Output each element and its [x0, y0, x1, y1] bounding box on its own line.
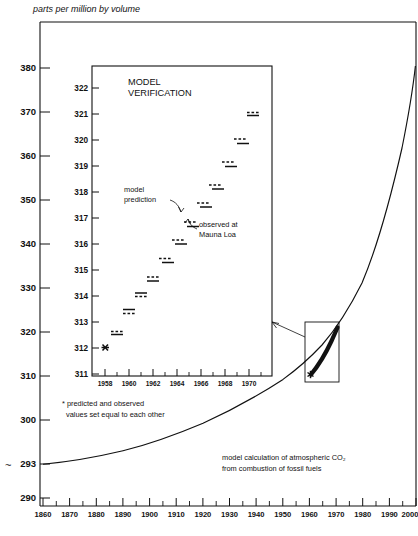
inset-x-tick-labels: 1958 1960 1962 1964 1966 1968 1970 [98, 380, 257, 387]
inset-panel: MODEL VERIFICATION 322 321 320 319 318 3… [74, 66, 272, 387]
inset-y-tick-313: 313 [74, 318, 88, 327]
y-tick-300: 300 [20, 414, 36, 425]
y-tick-350: 350 [20, 194, 36, 205]
inset-y-tick-322: 322 [74, 84, 88, 93]
main-x-ticks [43, 498, 416, 506]
x-tick-1990: 1990 [381, 510, 398, 519]
main-x-tick-labels: 1860 1870 1880 1890 1900 1910 1920 1930 … [35, 510, 418, 519]
y-tick-330: 330 [20, 282, 36, 293]
co2-figure: parts per million by volume 380 370 360 … [0, 0, 418, 536]
inset-x-tick-1964: 1964 [170, 380, 185, 387]
inset-y-tick-312: 312 [74, 344, 88, 353]
inset-y-tick-318: 318 [74, 188, 88, 197]
inset-title-line2: VERIFICATION [128, 88, 192, 98]
units-label: parts per million by volume [32, 4, 140, 14]
inset-x-tick-1970: 1970 [242, 380, 257, 387]
label-observed-line2: Mauna Loa [199, 230, 237, 239]
curve-annotation: model calculation of atmospheric CO₂ fro… [222, 453, 346, 473]
inset-x-tick-1968: 1968 [218, 380, 233, 387]
x-tick-1860: 1860 [35, 510, 52, 519]
callout-leader [272, 322, 305, 337]
inset-y-tick-320: 320 [74, 136, 88, 145]
y-tick-340: 340 [20, 238, 36, 249]
label-prediction-line2: prediction [124, 195, 156, 204]
y-tick-320: 320 [20, 326, 36, 337]
inset-y-tick-317: 317 [74, 214, 88, 223]
x-tick-1970: 1970 [328, 510, 345, 519]
curve-annotation-line2: from combustion of fossil fuels [222, 464, 322, 473]
x-tick-1870: 1870 [61, 510, 78, 519]
inset-y-tick-321: 321 [74, 110, 88, 119]
inset-y-tick-311: 311 [75, 370, 89, 379]
inset-x-tick-1966: 1966 [194, 380, 209, 387]
y-tick-290: 290 [20, 492, 36, 503]
x-tick-1950: 1950 [274, 510, 291, 519]
label-prediction-line1: model [124, 185, 144, 194]
x-tick-1960: 1960 [301, 510, 318, 519]
x-tick-1940: 1940 [248, 510, 265, 519]
label-observed-line1: observed at [199, 220, 238, 229]
x-tick-1910: 1910 [168, 510, 185, 519]
y-tick-310: 310 [20, 370, 36, 381]
inset-frame [92, 66, 272, 376]
highlighted-curve-segment [311, 328, 338, 375]
x-tick-2000: 2000 [402, 510, 418, 519]
footnote: * predicted and observed values set equa… [62, 399, 165, 419]
x-tick-1890: 1890 [114, 510, 131, 519]
x-tick-1920: 1920 [194, 510, 211, 519]
inset-x-tick-1962: 1962 [146, 380, 161, 387]
figure-canvas: parts per million by volume 380 370 360 … [0, 0, 418, 536]
y-tick-360: 360 [20, 150, 36, 161]
inset-x-tick-1960: 1960 [122, 380, 137, 387]
inset-title-line1: MODEL [128, 77, 161, 87]
inset-y-tick-316: 316 [74, 240, 88, 249]
x-tick-1930: 1930 [221, 510, 238, 519]
y-tick-380: 380 [20, 62, 36, 73]
footnote-line2: values set equal to each other [66, 410, 165, 419]
footnote-line1: * predicted and observed [62, 399, 144, 408]
x-tick-1980: 1980 [354, 510, 371, 519]
x-tick-1900: 1900 [141, 510, 158, 519]
y-tick-293: 293 [20, 458, 36, 469]
inset-y-tick-315: 315 [74, 266, 88, 275]
curve-annotation-line1: model calculation of atmospheric CO₂ [222, 453, 346, 462]
inset-x-tick-1958: 1958 [98, 380, 113, 387]
inset-y-tick-314: 314 [74, 292, 88, 301]
approx-tilde-icon: ~ [5, 459, 11, 471]
inset-y-tick-319: 319 [74, 162, 88, 171]
main-y-tick-labels: 380 370 360 350 340 330 320 310 300 293 … [5, 62, 36, 503]
y-tick-370: 370 [20, 106, 36, 117]
x-tick-1880: 1880 [88, 510, 105, 519]
inset-y-tick-labels: 322 321 320 319 318 317 316 315 314 313 … [74, 84, 88, 379]
main-y-ticks [40, 68, 50, 498]
